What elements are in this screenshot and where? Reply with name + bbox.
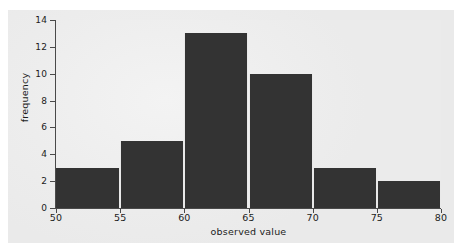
histogram-bar	[56, 168, 120, 208]
x-axis-title: observed value	[56, 226, 441, 237]
x-axis-tick-label: 50	[36, 213, 76, 223]
histogram-bar	[377, 181, 441, 208]
x-axis-tick-label: 55	[100, 213, 140, 223]
histogram-bar	[184, 33, 248, 208]
y-axis-tick	[50, 127, 55, 128]
x-axis-tick-label: 70	[293, 213, 333, 223]
x-axis-tick-label: 80	[421, 213, 461, 223]
chart-figure: 02468101214 50556065707580 frequency obs…	[8, 10, 454, 243]
y-axis-tick-label: 2	[17, 177, 47, 186]
y-axis-tick-label: 0	[17, 204, 47, 213]
y-axis-tick	[50, 101, 55, 102]
y-axis-tick	[50, 47, 55, 48]
y-axis-title: frequency	[19, 63, 30, 133]
y-axis-tick	[50, 208, 55, 209]
y-axis-tick	[50, 181, 55, 182]
y-axis-tick-label: 4	[17, 150, 47, 159]
x-axis-tick-label: 60	[164, 213, 204, 223]
histogram-bar	[313, 168, 377, 208]
y-axis-tick-label: 14	[17, 16, 47, 25]
x-axis-tick-label: 65	[229, 213, 269, 223]
histogram-bar	[120, 141, 184, 208]
x-axis-tick-label: 75	[357, 213, 397, 223]
y-axis-tick	[50, 154, 55, 155]
plot-area	[56, 20, 441, 208]
y-axis-spine	[55, 20, 56, 209]
y-axis-tick	[50, 20, 55, 21]
y-axis-tick-label: 12	[17, 43, 47, 52]
y-axis-tick	[50, 74, 55, 75]
histogram-bar	[249, 74, 313, 208]
